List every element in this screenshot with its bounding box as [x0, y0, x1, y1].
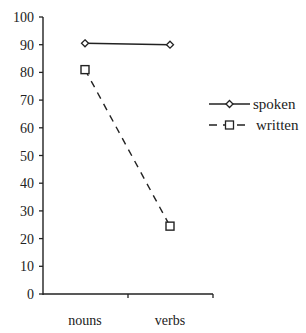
- square-marker-icon: [81, 66, 89, 74]
- y-axis: 0102030405060708090100: [13, 10, 43, 302]
- y-tick-label: 50: [20, 149, 34, 164]
- legend-item-written: written: [209, 117, 299, 133]
- series-line: [85, 70, 170, 227]
- y-tick-label: 90: [20, 38, 34, 53]
- x-category-label: verbs: [155, 313, 185, 328]
- diamond-marker-icon: [226, 101, 233, 108]
- y-tick-label: 80: [20, 65, 34, 80]
- legend-label-written: written: [256, 117, 299, 133]
- y-tick-label: 70: [20, 93, 34, 108]
- diamond-marker-icon: [82, 40, 89, 47]
- series-written: [81, 66, 174, 231]
- plot-series: [81, 40, 174, 230]
- x-axis: nounsverbs: [43, 294, 213, 328]
- legend-item-spoken: spoken: [209, 96, 296, 112]
- y-tick-label: 30: [20, 204, 34, 219]
- y-tick-label: 10: [20, 259, 34, 274]
- square-marker-icon: [226, 121, 234, 129]
- line-chart: 0102030405060708090100 nounsverbs spoken…: [0, 0, 306, 333]
- series-spoken: [82, 40, 174, 48]
- y-tick-label: 40: [20, 176, 34, 191]
- y-tick-label: 60: [20, 121, 34, 136]
- legend-label-spoken: spoken: [253, 96, 296, 112]
- series-line: [85, 43, 170, 44]
- legend: spoken written: [209, 96, 299, 133]
- x-category-label: nouns: [68, 313, 101, 328]
- diamond-marker-icon: [167, 41, 174, 48]
- y-tick-label: 20: [20, 232, 34, 247]
- y-tick-label: 0: [27, 287, 34, 302]
- y-tick-label: 100: [13, 10, 34, 25]
- square-marker-icon: [166, 222, 174, 230]
